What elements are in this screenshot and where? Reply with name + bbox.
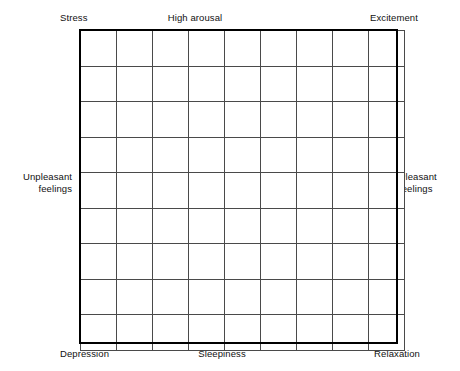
- grid-cell[interactable]: [189, 66, 225, 102]
- grid-cell[interactable]: [81, 315, 117, 351]
- grid-cell[interactable]: [369, 66, 405, 102]
- grid-cell[interactable]: [333, 279, 369, 315]
- grid-cell[interactable]: [369, 315, 405, 351]
- grid-cell[interactable]: [189, 173, 225, 209]
- grid-cell[interactable]: [81, 244, 117, 280]
- grid-cell[interactable]: [369, 279, 405, 315]
- grid-cell[interactable]: [297, 102, 333, 138]
- grid-cell[interactable]: [369, 31, 405, 67]
- grid-cell[interactable]: [117, 315, 153, 351]
- grid-cell[interactable]: [117, 31, 153, 67]
- grid-container: [80, 30, 395, 341]
- grid-cell[interactable]: [261, 208, 297, 244]
- grid-cell[interactable]: [225, 66, 261, 102]
- grid-cell[interactable]: [81, 137, 117, 173]
- grid-cell[interactable]: [333, 137, 369, 173]
- grid-row: [81, 66, 405, 102]
- grid-cell[interactable]: [225, 137, 261, 173]
- grid-cell[interactable]: [261, 173, 297, 209]
- grid-cell[interactable]: [261, 66, 297, 102]
- grid-cell[interactable]: [153, 137, 189, 173]
- grid-cell[interactable]: [225, 173, 261, 209]
- grid-cell[interactable]: [261, 102, 297, 138]
- grid-cell[interactable]: [369, 244, 405, 280]
- grid-row: [81, 173, 405, 209]
- grid-cell[interactable]: [153, 173, 189, 209]
- grid-cell[interactable]: [189, 31, 225, 67]
- grid-cell[interactable]: [189, 208, 225, 244]
- grid-cell[interactable]: [81, 208, 117, 244]
- grid-cell[interactable]: [153, 66, 189, 102]
- grid-cell[interactable]: [297, 315, 333, 351]
- affect-grid-table[interactable]: [80, 30, 405, 351]
- grid-cell[interactable]: [153, 208, 189, 244]
- grid-cell[interactable]: [369, 137, 405, 173]
- grid-cell[interactable]: [333, 315, 369, 351]
- grid-cell[interactable]: [225, 315, 261, 351]
- grid-cell[interactable]: [153, 315, 189, 351]
- grid-row: [81, 208, 405, 244]
- grid-cell[interactable]: [189, 102, 225, 138]
- grid-cell[interactable]: [333, 173, 369, 209]
- grid-cell[interactable]: [189, 137, 225, 173]
- grid-row: [81, 315, 405, 351]
- grid-cell[interactable]: [189, 279, 225, 315]
- grid-cell[interactable]: [153, 31, 189, 67]
- grid-cell[interactable]: [225, 31, 261, 67]
- grid-cell[interactable]: [153, 279, 189, 315]
- grid-cell[interactable]: [117, 279, 153, 315]
- grid-cell[interactable]: [333, 208, 369, 244]
- grid-cell[interactable]: [333, 31, 369, 67]
- grid-cell[interactable]: [189, 244, 225, 280]
- affect-grid-figure: Stress High arousal Excitement Unpleasan…: [0, 0, 460, 371]
- grid-cell[interactable]: [261, 137, 297, 173]
- grid-cell[interactable]: [333, 66, 369, 102]
- grid-cell[interactable]: [297, 279, 333, 315]
- label-unpleasant-feelings: Unpleasant feelings: [23, 171, 72, 195]
- grid-cell[interactable]: [261, 279, 297, 315]
- grid-cell[interactable]: [189, 315, 225, 351]
- grid-cell[interactable]: [297, 137, 333, 173]
- grid-cell[interactable]: [117, 66, 153, 102]
- grid-cell[interactable]: [225, 102, 261, 138]
- label-high-arousal: High arousal: [168, 12, 223, 24]
- grid-cell[interactable]: [369, 173, 405, 209]
- grid-cell[interactable]: [297, 244, 333, 280]
- grid-cell[interactable]: [117, 102, 153, 138]
- grid-cell[interactable]: [117, 244, 153, 280]
- grid-row: [81, 244, 405, 280]
- grid-cell[interactable]: [81, 102, 117, 138]
- grid-cell[interactable]: [297, 208, 333, 244]
- grid-cell[interactable]: [81, 279, 117, 315]
- grid-cell[interactable]: [117, 137, 153, 173]
- grid-cell[interactable]: [153, 244, 189, 280]
- grid-cell[interactable]: [225, 279, 261, 315]
- grid-cell[interactable]: [117, 173, 153, 209]
- label-stress: Stress: [60, 12, 88, 24]
- grid-cell[interactable]: [297, 66, 333, 102]
- grid-cell[interactable]: [261, 31, 297, 67]
- grid-row: [81, 102, 405, 138]
- grid-cell[interactable]: [81, 31, 117, 67]
- grid-row: [81, 137, 405, 173]
- grid-cell[interactable]: [333, 244, 369, 280]
- grid-cell[interactable]: [333, 102, 369, 138]
- grid-cell[interactable]: [153, 102, 189, 138]
- grid-cell[interactable]: [297, 31, 333, 67]
- grid-row: [81, 279, 405, 315]
- label-excitement: Excitement: [370, 12, 418, 24]
- grid-cell[interactable]: [81, 173, 117, 209]
- grid-cell[interactable]: [261, 244, 297, 280]
- grid-cell[interactable]: [225, 208, 261, 244]
- grid-cell[interactable]: [369, 102, 405, 138]
- grid-row: [81, 31, 405, 67]
- grid-cell[interactable]: [81, 66, 117, 102]
- grid-body: [81, 31, 405, 351]
- grid-cell[interactable]: [225, 244, 261, 280]
- grid-cell[interactable]: [261, 315, 297, 351]
- grid-cell[interactable]: [369, 208, 405, 244]
- grid-cell[interactable]: [297, 173, 333, 209]
- grid-cell[interactable]: [117, 208, 153, 244]
